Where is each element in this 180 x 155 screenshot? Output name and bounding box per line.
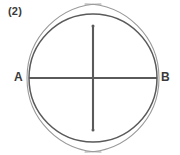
- point-label-a: A: [14, 71, 23, 83]
- step-number-label: (2): [8, 6, 22, 17]
- geometric-construction-figure: (2) A B: [0, 0, 180, 155]
- arc-intersection-point-bottom: [92, 129, 95, 132]
- point-label-b: B: [161, 71, 170, 83]
- arc-intersection-point-top: [92, 25, 95, 28]
- construction-drawing: [0, 0, 180, 155]
